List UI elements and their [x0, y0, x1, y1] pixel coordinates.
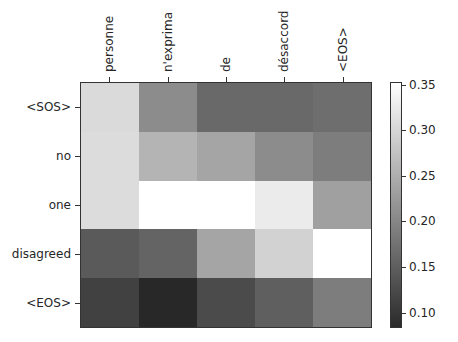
tick-mark	[75, 156, 80, 157]
x-tick-label: désaccord	[278, 11, 290, 72]
heatmap-cell	[139, 229, 197, 278]
tick-mark	[402, 267, 406, 268]
heatmap-cell	[197, 229, 255, 278]
heatmap-cell	[81, 83, 139, 132]
tick-mark	[343, 77, 344, 82]
x-tick-label: personne	[103, 16, 115, 72]
heatmap-cell	[139, 83, 197, 132]
tick-mark	[402, 85, 406, 86]
heatmap-cell	[197, 83, 255, 132]
y-tick: <EOS>	[0, 293, 80, 313]
heatmap-cell	[197, 278, 255, 327]
tick-mark	[75, 205, 80, 206]
heatmap-cell	[81, 229, 139, 278]
heatmap-cell	[81, 132, 139, 181]
heatmap-cell	[313, 181, 371, 230]
tick-mark	[75, 254, 80, 255]
y-tick: one	[0, 195, 80, 215]
colorbar-tick-label: 0.20	[409, 214, 436, 228]
heatmap-cell	[255, 278, 313, 327]
y-tick-label: one	[49, 198, 71, 212]
heatmap-cell	[139, 181, 197, 230]
x-tick: personne	[99, 0, 119, 82]
x-tick-label: de	[220, 57, 232, 72]
x-tick: de	[216, 0, 236, 82]
tick-mark	[402, 313, 406, 314]
tick-mark	[402, 221, 406, 222]
colorbar	[390, 82, 402, 328]
tick-mark	[402, 130, 406, 131]
y-tick: disagreed	[0, 244, 80, 264]
heatmap-cell	[81, 278, 139, 327]
heatmap-cell	[255, 132, 313, 181]
tick-mark	[226, 77, 227, 82]
y-tick-label: <EOS>	[26, 296, 71, 310]
attention-heatmap	[80, 82, 372, 328]
heatmap-cell	[197, 181, 255, 230]
y-tick: no	[0, 146, 80, 166]
x-tick: désaccord	[274, 0, 294, 82]
colorbar-tick-label: 0.25	[409, 169, 436, 183]
colorbar-tick-label: 0.15	[409, 260, 436, 274]
tick-mark	[284, 77, 285, 82]
heatmap-cell	[313, 278, 371, 327]
y-tick: <SOS>	[0, 97, 80, 117]
heatmap-cell	[139, 278, 197, 327]
colorbar-tick-label: 0.30	[409, 123, 436, 137]
heatmap-cell	[313, 229, 371, 278]
heatmap-cell	[313, 132, 371, 181]
heatmap-cell	[313, 83, 371, 132]
x-tick-label: n'exprima	[162, 12, 174, 72]
heatmap-cell	[197, 132, 255, 181]
tick-mark	[109, 77, 110, 82]
heatmap-cell	[255, 83, 313, 132]
x-tick-label: <EOS>	[337, 27, 349, 72]
heatmap-cell	[255, 229, 313, 278]
heatmap-cell	[139, 132, 197, 181]
tick-mark	[75, 107, 80, 108]
tick-mark	[402, 176, 406, 177]
colorbar-tick-label: 0.35	[409, 78, 436, 92]
y-tick-label: no	[56, 149, 71, 163]
tick-mark	[168, 77, 169, 82]
tick-mark	[75, 303, 80, 304]
y-tick-label: <SOS>	[26, 100, 71, 114]
x-tick: <EOS>	[333, 0, 353, 82]
heatmap-cell	[81, 181, 139, 230]
x-tick: n'exprima	[158, 0, 178, 82]
heatmap-cell	[255, 181, 313, 230]
y-tick-label: disagreed	[12, 247, 71, 261]
colorbar-tick-label: 0.10	[409, 306, 436, 320]
